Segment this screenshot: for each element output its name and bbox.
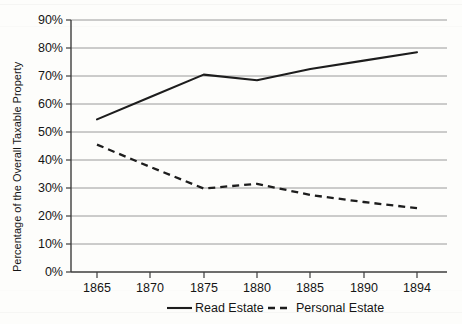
gridlines [71, 20, 447, 244]
y-tick-90: 90% [38, 13, 63, 27]
y-tick-0: 0% [45, 265, 63, 279]
legend-label-personal-estate: Personal Estate [296, 301, 384, 315]
x-tick-marks [97, 272, 417, 278]
y-tick-60: 60% [38, 97, 63, 111]
series-line-personal-estate [97, 145, 417, 209]
series-line-read-estate [97, 52, 417, 119]
x-tick-1880: 1880 [243, 281, 271, 295]
y-tick-10: 10% [38, 237, 63, 251]
line-chart: Percentage of the Overall Taxable Proper… [0, 0, 462, 324]
y-tick-40: 40% [38, 153, 63, 167]
y-tick-80: 80% [38, 41, 63, 55]
x-tick-1875: 1875 [190, 281, 218, 295]
x-tick-1885: 1885 [296, 281, 324, 295]
legend-label-read-estate: Read Estate [195, 301, 264, 315]
y-tick-50: 50% [38, 125, 63, 139]
x-tick-1870: 1870 [136, 281, 164, 295]
y-tick-70: 70% [38, 69, 63, 83]
y-tick-20: 20% [38, 209, 63, 223]
y-tick-labels: 90% 80% 70% 60% 50% 40% 30% 20% 10% 0% [38, 13, 63, 279]
x-tick-1894: 1894 [403, 281, 431, 295]
x-tick-labels: 1865 1870 1875 1880 1885 1890 1894 [83, 281, 431, 295]
y-axis-title: Percentage of the Overall Taxable Proper… [11, 61, 23, 272]
x-tick-1890: 1890 [350, 281, 378, 295]
y-tick-marks [66, 20, 71, 272]
y-tick-30: 30% [38, 181, 63, 195]
x-tick-1865: 1865 [83, 281, 111, 295]
legend: Read Estate Personal Estate [167, 301, 384, 315]
